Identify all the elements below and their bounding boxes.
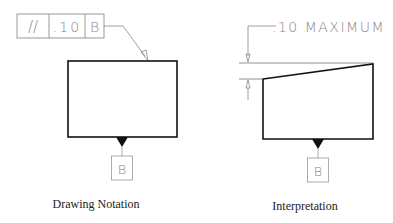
datum-reference: B: [90, 19, 99, 35]
leader-line: [104, 26, 148, 61]
interpretation-view: .10 MAXIMUM B Interpretation: [239, 19, 385, 213]
dimension-arrow-up-icon: [246, 80, 250, 88]
datum-label: B: [118, 162, 127, 177]
caption-interpretation: Interpretation: [272, 199, 337, 213]
datum-triangle-icon: [116, 137, 128, 147]
drawing-notation-view: // .10 B B Drawing Notation: [17, 14, 177, 211]
gdt-parallelism-diagram: // .10 B B Drawing Notation .10 MAXIMUM: [0, 0, 393, 223]
datum-feature-symbol: B: [308, 139, 329, 182]
part-outline-tilted: [263, 64, 373, 139]
tolerance-value: .10: [53, 19, 81, 35]
datum-triangle-icon: [312, 139, 324, 149]
parallelism-symbol: //: [28, 18, 38, 36]
part-outline: [68, 61, 177, 137]
feature-control-frame: // .10 B: [17, 14, 104, 38]
caption-drawing-notation: Drawing Notation: [53, 197, 140, 211]
tolerance-dimension: .10 MAXIMUM: [239, 19, 385, 100]
dimension-text: .10 MAXIMUM: [272, 19, 385, 35]
datum-feature-symbol: B: [112, 137, 133, 180]
datum-label: B: [314, 164, 323, 179]
